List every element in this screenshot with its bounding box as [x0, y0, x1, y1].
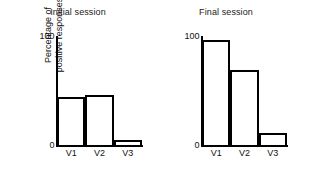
bar-v2-initial	[85, 95, 113, 145]
x-tick-label-v3-initial: V3	[114, 149, 142, 158]
y-tick-label-0-final: 0	[194, 141, 199, 150]
x-tick-label-v1-final: V1	[202, 149, 230, 158]
x-tick-label-v1-initial: V1	[57, 149, 85, 158]
bar-slot-v1-final: V1	[202, 36, 230, 145]
plot-area-initial-session: 100 0 V1 V2 V3	[57, 36, 142, 145]
plot-area-final-session: 100 0 V1 V2 V3	[202, 36, 287, 145]
x-tick-label-v2-final: V2	[230, 149, 258, 158]
bar-v1-initial	[57, 97, 85, 145]
x-tick-label-v3-final: V3	[259, 149, 287, 158]
bar-slot-v3-initial: V3	[114, 36, 142, 145]
figure-canvas: Initial session Percentage of positive r…	[0, 0, 309, 170]
bar-group-initial-session: V1 V2 V3	[57, 36, 142, 145]
y-axis-title-line-1: Percentage of	[43, 0, 54, 95]
bar-slot-v1-initial: V1	[57, 36, 85, 145]
x-axis-line-final	[201, 145, 288, 147]
bar-slot-v2-final: V2	[230, 36, 258, 145]
y-tick-label-100-initial: 100	[39, 32, 54, 41]
y-tick-label-0-initial: 0	[49, 141, 54, 150]
bar-v2-final	[230, 70, 258, 145]
bar-slot-v3-final: V3	[259, 36, 287, 145]
panel-initial-session: Initial session Percentage of positive r…	[0, 0, 160, 170]
bar-group-final-session: V1 V2 V3	[202, 36, 287, 145]
panel-title-final-session: Final session	[160, 7, 292, 17]
x-axis-line-initial	[56, 145, 143, 147]
bar-slot-v2-initial: V2	[85, 36, 113, 145]
bar-v3-initial	[114, 140, 142, 145]
x-tick-label-v2-initial: V2	[85, 149, 113, 158]
panel-title-initial-session: Initial session	[8, 7, 148, 17]
bar-v1-final	[202, 40, 230, 145]
bar-v3-final	[259, 133, 287, 145]
y-tick-label-100-final: 100	[184, 32, 199, 41]
